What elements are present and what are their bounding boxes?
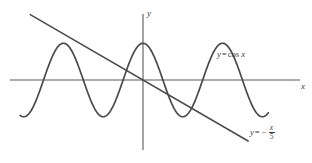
- linear-function-line: [30, 15, 248, 141]
- fraction-denominator: 5: [269, 133, 275, 141]
- cosine-label-function: cos: [228, 49, 239, 59]
- line-equation-label: y=− x 5: [250, 124, 275, 141]
- line-label-equals: =: [254, 128, 261, 137]
- cosine-curve-label: y=cos x: [217, 50, 245, 59]
- fraction-numerator: x: [269, 124, 274, 132]
- line-label-fraction: x 5: [269, 124, 275, 141]
- cosine-line-figure: y x y=cos x y=− x 5: [0, 0, 312, 163]
- y-axis-label: y: [147, 9, 151, 18]
- x-axis-label: x: [301, 82, 305, 91]
- line-label-minus-sign: −: [261, 128, 268, 137]
- cosine-label-var-x: x: [241, 49, 245, 59]
- cosine-label-equals: =: [221, 49, 228, 59]
